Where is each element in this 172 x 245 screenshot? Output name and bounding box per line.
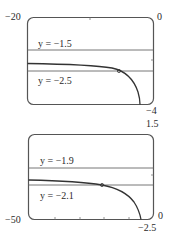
bottom-chart-frame — [29, 135, 154, 220]
top-chart-plot — [0, 0, 172, 120]
top-chart: −20 0 −4 y = −1.5 y = −2.5 — [0, 0, 172, 120]
bottom-chart: 1.5 −50 0 −2.5 y = −1.9 y = −2.1 — [0, 118, 172, 245]
bottom-x-min-label: −50 — [5, 215, 21, 225]
top-x-max-label: 0 — [157, 12, 162, 22]
bottom-line2-label: y = −2.1 — [40, 191, 74, 201]
bottom-y-top-label: 1.5 — [146, 119, 159, 129]
bottom-x-max-label: 0 — [158, 211, 163, 221]
bottom-line1-label: y = −1.9 — [40, 156, 74, 166]
top-line2-label: y = −2.5 — [38, 76, 72, 86]
top-y-min-label: −4 — [146, 106, 157, 116]
top-x-min-label: −20 — [5, 12, 21, 22]
top-line1-label: y = −1.5 — [38, 39, 72, 49]
top-chart-frame — [28, 18, 154, 105]
bottom-y-min-label: −2.5 — [138, 223, 156, 233]
